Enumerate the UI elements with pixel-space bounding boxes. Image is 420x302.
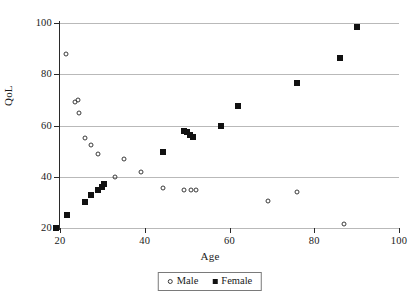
data-point-male xyxy=(193,187,198,192)
data-point-female xyxy=(337,55,343,61)
y-tick-mark-80 xyxy=(54,74,59,75)
data-point-female xyxy=(160,149,166,155)
data-point-female xyxy=(294,80,300,86)
data-point-male xyxy=(182,187,187,192)
data-point-female xyxy=(64,212,70,218)
gridline-y-40 xyxy=(60,177,399,178)
x-tick-mark-40 xyxy=(145,228,146,233)
chart-legend: Male Female xyxy=(158,272,262,291)
filled-square-icon xyxy=(212,279,217,284)
data-point-female xyxy=(354,24,360,30)
data-point-male xyxy=(88,143,93,148)
y-axis-line xyxy=(59,21,60,230)
y-tick-mark-40 xyxy=(54,177,59,178)
y-tick-label-80: 80 xyxy=(41,69,52,80)
plot-area xyxy=(60,23,399,228)
data-point-female xyxy=(235,103,241,109)
data-point-female xyxy=(218,123,224,129)
scatter-plot-figure: QoL Age Male Female 20406080100204060801… xyxy=(0,0,420,302)
x-tick-label-60: 60 xyxy=(224,236,235,247)
y-tick-label-100: 100 xyxy=(36,18,52,29)
legend-label-female: Female xyxy=(221,275,252,287)
x-tick-mark-60 xyxy=(230,228,231,233)
data-point-male xyxy=(82,136,87,141)
data-point-female xyxy=(53,225,59,231)
x-tick-mark-80 xyxy=(314,228,315,233)
data-point-female xyxy=(82,199,88,205)
data-point-male xyxy=(341,222,346,227)
gridline-y-100 xyxy=(60,23,399,24)
x-tick-label-80: 80 xyxy=(309,236,320,247)
x-tick-label-20: 20 xyxy=(55,236,66,247)
legend-label-male: Male xyxy=(177,275,199,287)
open-circle-icon xyxy=(168,279,173,284)
data-point-male xyxy=(121,156,126,161)
x-tick-mark-100 xyxy=(399,228,400,233)
data-point-female xyxy=(101,181,107,187)
legend-entry-male: Male xyxy=(168,275,199,287)
data-point-female xyxy=(88,192,94,198)
data-point-male xyxy=(64,52,69,57)
y-tick-mark-100 xyxy=(54,23,59,24)
x-tick-label-100: 100 xyxy=(391,236,407,247)
y-tick-label-40: 40 xyxy=(41,172,52,183)
data-point-male xyxy=(76,97,81,102)
x-tick-mark-20 xyxy=(60,228,61,233)
data-point-male xyxy=(265,198,270,203)
y-tick-label-20: 20 xyxy=(41,223,52,234)
legend-entry-female: Female xyxy=(212,275,252,287)
data-point-male xyxy=(160,185,165,190)
y-tick-mark-60 xyxy=(54,126,59,127)
data-point-female xyxy=(190,134,196,140)
data-point-male xyxy=(295,190,300,195)
gridline-y-60 xyxy=(60,126,399,127)
data-point-male xyxy=(77,111,82,116)
data-point-male xyxy=(138,169,143,174)
data-point-male xyxy=(96,151,101,156)
y-axis-title: QoL xyxy=(2,85,14,106)
data-point-male xyxy=(113,174,118,179)
x-tick-label-40: 40 xyxy=(139,236,150,247)
y-tick-label-60: 60 xyxy=(41,121,52,132)
x-axis-title: Age xyxy=(0,250,420,262)
gridline-y-80 xyxy=(60,74,399,75)
